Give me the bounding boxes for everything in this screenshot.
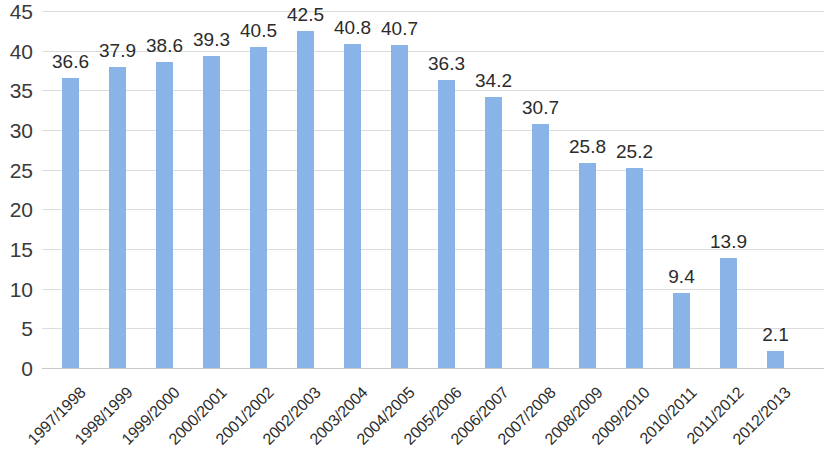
bar-data-label: 25.8 <box>569 137 606 156</box>
bar[interactable] <box>438 80 455 368</box>
bar[interactable] <box>109 67 126 368</box>
gridline <box>42 11 824 12</box>
bar[interactable] <box>156 62 173 368</box>
bar-data-label: 42.5 <box>287 5 324 24</box>
bar[interactable] <box>344 44 361 368</box>
bar-data-label: 36.3 <box>428 54 465 73</box>
x-axis-tick-labels: 1997/19981998/19991999/20002000/20012001… <box>0 368 824 457</box>
bar-data-label: 40.5 <box>240 21 277 40</box>
bar-data-label: 38.6 <box>146 36 183 55</box>
bar[interactable] <box>673 293 690 368</box>
bar[interactable] <box>720 258 737 368</box>
bar[interactable] <box>767 351 784 368</box>
bar-data-label: 40.7 <box>381 19 418 38</box>
bar-data-label: 36.6 <box>52 52 89 71</box>
bar-data-label: 30.7 <box>522 98 559 117</box>
y-axis-tick-label: 25 <box>0 159 33 180</box>
y-axis-tick-label: 30 <box>0 120 33 141</box>
y-axis-tick-label: 45 <box>0 1 33 22</box>
plot-area: 051015202530354045 36.637.938.639.340.54… <box>0 0 824 380</box>
bar-data-label: 40.8 <box>334 18 371 37</box>
y-axis-tick-label: 40 <box>0 40 33 61</box>
bar[interactable] <box>62 78 79 368</box>
bar-data-label: 2.1 <box>762 325 788 344</box>
bar[interactable] <box>297 31 314 368</box>
bar[interactable] <box>250 47 267 368</box>
y-axis-tick-label: 35 <box>0 80 33 101</box>
bar[interactable] <box>391 45 408 368</box>
bar[interactable] <box>485 97 502 368</box>
y-axis-tick-label: 20 <box>0 199 33 220</box>
bar[interactable] <box>579 163 596 368</box>
bar[interactable] <box>532 124 549 368</box>
y-axis-tick-label: 5 <box>0 318 33 339</box>
bar-data-label: 9.4 <box>668 267 694 286</box>
bar-data-label: 34.2 <box>475 71 512 90</box>
y-axis-tick-label: 10 <box>0 278 33 299</box>
bar-chart: 051015202530354045 36.637.938.639.340.54… <box>0 0 824 457</box>
bar-data-label: 25.2 <box>616 142 653 161</box>
bar[interactable] <box>626 168 643 368</box>
bar[interactable] <box>203 56 220 368</box>
bar-data-label: 37.9 <box>99 41 136 60</box>
y-axis-tick-label: 15 <box>0 239 33 260</box>
bar-data-label: 39.3 <box>193 30 230 49</box>
bar-data-label: 13.9 <box>710 232 747 251</box>
